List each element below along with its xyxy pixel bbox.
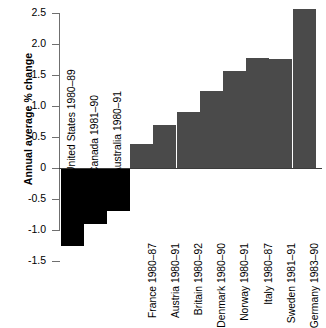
bar <box>84 168 107 224</box>
bar <box>177 112 200 168</box>
bar <box>107 168 130 211</box>
bar <box>130 144 153 168</box>
bar <box>61 168 84 246</box>
category-label: United States 1980–89 <box>66 69 77 174</box>
y-tick <box>52 13 60 14</box>
category-label: Norway 1980–91 <box>239 243 250 321</box>
category-label: Germany 1983–90 <box>309 243 320 328</box>
y-tick <box>52 75 60 76</box>
y-tick-label: 1.5 <box>6 68 46 80</box>
y-tick-label: -0.5 <box>6 192 46 204</box>
category-label: Sweden 1981–91 <box>286 243 297 323</box>
category-label: France 1980–87 <box>147 243 158 318</box>
y-tick-label: 2.0 <box>6 37 46 49</box>
y-tick <box>52 199 60 200</box>
bar <box>223 71 246 168</box>
y-tick-label: -1.0 <box>6 223 46 235</box>
bar <box>200 91 223 169</box>
y-tick <box>52 261 60 262</box>
category-label: Denmark 1980–90 <box>216 243 227 328</box>
bar <box>293 9 316 168</box>
category-label: Australia 1980–91 <box>112 91 123 174</box>
y-tick <box>52 106 60 107</box>
bar <box>246 58 269 168</box>
category-label: Britain 1980–92 <box>193 243 204 315</box>
y-tick-label: 0.5 <box>6 130 46 142</box>
y-tick <box>52 44 60 45</box>
y-tick-label: 0 <box>6 161 46 173</box>
y-tick-label: 2.5 <box>6 6 46 18</box>
bar <box>269 59 292 168</box>
y-tick <box>52 137 60 138</box>
y-tick-label: 1.0 <box>6 99 46 111</box>
y-axis-title: Annual average % change <box>22 34 34 204</box>
category-label: Austria 1980–91 <box>170 243 181 318</box>
y-tick <box>52 230 60 231</box>
bar <box>153 125 176 168</box>
category-label: Italy 1980–87 <box>263 243 274 305</box>
category-label: Canada 1981–90 <box>89 95 100 174</box>
y-tick-label: -1.5 <box>6 254 46 266</box>
